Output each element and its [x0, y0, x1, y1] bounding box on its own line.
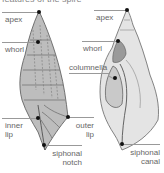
label-outer-lip: outer lip — [70, 121, 94, 139]
marker-apex-left — [37, 10, 41, 14]
label-apex-right: apex — [96, 13, 113, 22]
leader-line-whorl-right — [82, 41, 118, 42]
marker-apex-right — [125, 8, 129, 12]
leader-line-siphonal-notch — [44, 145, 82, 146]
leader-line-outer-lip — [68, 117, 94, 118]
right-shell-cross-section — [100, 9, 159, 150]
leader-line-apex-right — [94, 10, 127, 11]
marker-siphonal-notch — [42, 143, 46, 147]
label-apex-left: apex — [5, 15, 22, 24]
label-whorl-right: whorl — [83, 44, 102, 53]
label-siphonal-notch: siphonal notch — [48, 149, 82, 167]
label-whorl-left: whorl — [5, 45, 24, 54]
marker-whorl-left — [36, 40, 40, 44]
marker-columnella — [113, 76, 117, 80]
leader-line-columnella — [69, 73, 109, 74]
marker-siphonal-canal — [120, 142, 124, 146]
left-shell-exterior — [20, 11, 68, 150]
label-inner-lip: inner lip — [5, 121, 23, 139]
leader-line-whorl-left — [2, 42, 38, 43]
marker-outer-lip — [66, 115, 70, 119]
label-columnella: columnella — [69, 63, 107, 72]
leader-line-apex-left — [2, 12, 39, 13]
marker-whorl-right — [116, 39, 120, 43]
label-siphonal-canal: siphonal canal — [124, 148, 160, 166]
leader-line-inner-lip — [2, 118, 38, 119]
leader-line-siphonal-canal — [122, 144, 160, 145]
marker-inner-lip — [36, 116, 40, 120]
